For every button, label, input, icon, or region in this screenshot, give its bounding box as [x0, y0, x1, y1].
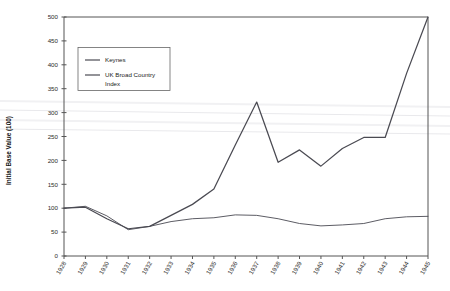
y-tick-label: 200: [48, 157, 59, 164]
y-axis-title: Initial Base Value (100): [5, 116, 13, 185]
y-tick-label: 150: [48, 181, 59, 188]
x-tick-label: 1934: [183, 260, 196, 276]
y-tick-label: 300: [48, 109, 59, 116]
x-tick-label: 1941: [333, 260, 346, 276]
x-tick-label: 1935: [204, 260, 217, 276]
y-tick-label: 400: [48, 61, 59, 68]
x-tick-label: 1945: [418, 260, 431, 276]
x-tick-label: 1942: [354, 260, 367, 276]
legend-label-keynes: Keynes: [105, 56, 126, 63]
y-tick-label: 500: [48, 13, 59, 20]
x-axis: 1928192919301931193219331934193519361937…: [54, 256, 431, 275]
x-tick-label: 1932: [140, 260, 153, 276]
chart-figure: 050100150200250300350400450500 192819291…: [0, 0, 450, 291]
y-tick-label: 350: [48, 85, 59, 92]
y-tick-label: 50: [51, 228, 58, 235]
x-tick-label: 1943: [376, 260, 389, 276]
legend-label-uk-index-line2: Index: [105, 80, 121, 87]
legend: Keynes UK Broad Country Index: [78, 48, 170, 91]
y-tick-label: 0: [55, 252, 59, 259]
x-tick-label: 1939: [290, 260, 303, 276]
x-tick-label: 1944: [397, 260, 410, 276]
line-chart-svg: 050100150200250300350400450500 192819291…: [0, 0, 450, 291]
x-tick-label: 1933: [161, 260, 174, 276]
legend-label-uk-index-line1: UK Broad Country: [105, 71, 156, 78]
scan-artifacts: [0, 101, 450, 134]
x-tick-label: 1937: [247, 260, 260, 276]
legend-box: [78, 48, 170, 91]
x-tick-label: 1928: [54, 260, 67, 276]
x-tick-label: 1931: [119, 260, 132, 276]
x-tick-label: 1930: [97, 260, 110, 276]
y-tick-label: 250: [48, 133, 59, 140]
y-tick-label: 100: [48, 204, 59, 211]
y-tick-label: 450: [48, 37, 59, 44]
x-tick-label: 1936: [226, 260, 239, 276]
x-tick-label: 1929: [76, 260, 89, 276]
x-tick-label: 1940: [311, 260, 324, 276]
series-line-uk-broad-country-index: [64, 206, 428, 229]
x-tick-label: 1938: [269, 260, 282, 276]
